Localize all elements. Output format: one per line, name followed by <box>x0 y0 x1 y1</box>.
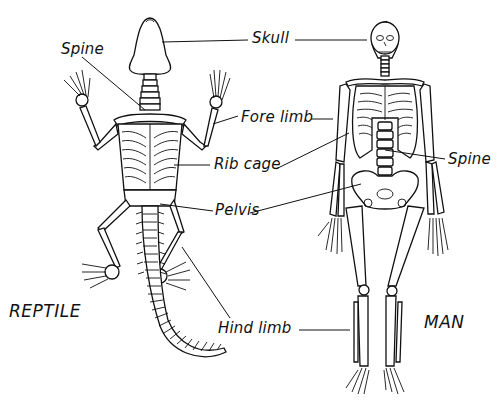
reptile-neck <box>140 74 160 110</box>
label-reptile: REPTILE <box>9 303 81 320</box>
leader-hind-limb-reptile <box>182 247 230 318</box>
label-spine-reptile: Spine <box>61 42 104 57</box>
human-skeleton <box>318 22 448 394</box>
label-pelvis: Pelvis <box>215 203 260 218</box>
label-spine-man: Spine <box>448 152 491 167</box>
label-fore-limb: Fore limb <box>241 110 313 125</box>
label-rib-cage: Rib cage <box>214 157 281 172</box>
human-pelvis <box>352 171 419 209</box>
reptile-rib-cage <box>118 124 182 190</box>
label-man: MAN <box>424 314 465 331</box>
reptile-pelvis <box>124 190 176 206</box>
leader-spine-man <box>385 150 445 159</box>
reptile-skeleton <box>64 18 230 357</box>
leader-skull-reptile <box>162 40 248 42</box>
label-hind-limb: Hind limb <box>218 321 292 336</box>
reptile-skull <box>129 18 170 74</box>
leader-pelvis-reptile <box>160 204 213 211</box>
human-legs <box>346 206 424 394</box>
human-neck <box>381 56 389 76</box>
skeleton-comparison-diagram: Spine Skull Fore limb Rib cage Spine Pel… <box>0 0 500 408</box>
leader-fore-limb-reptile <box>213 116 238 124</box>
label-skull: Skull <box>252 31 289 46</box>
reptile-hind-limbs <box>82 200 190 290</box>
human-spine <box>377 122 393 175</box>
